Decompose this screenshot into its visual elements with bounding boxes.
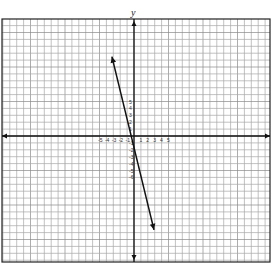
svg-text:-2: -2 — [129, 147, 134, 153]
svg-text:-6: -6 — [129, 174, 134, 180]
svg-text:3: 3 — [129, 112, 132, 118]
svg-text:5: 5 — [167, 137, 170, 143]
y-axis-label: y — [130, 7, 136, 18]
svg-text:1: 1 — [139, 137, 142, 143]
svg-text:-4: -4 — [129, 161, 134, 167]
svg-text:3: 3 — [153, 137, 156, 143]
svg-text:-3: -3 — [112, 137, 117, 143]
svg-text:-5: -5 — [98, 137, 103, 143]
svg-text:5: 5 — [129, 99, 132, 105]
svg-text:-3: -3 — [129, 154, 134, 160]
grid-lines — [2, 19, 270, 262]
coordinate-grid-chart: -5-4-3-2-11234554321-1-2-3-4-5-6 y — [0, 0, 275, 267]
svg-text:2: 2 — [146, 137, 149, 143]
svg-text:-4: -4 — [105, 137, 110, 143]
svg-text:4: 4 — [160, 137, 163, 143]
svg-text:4: 4 — [129, 105, 132, 111]
svg-text:-2: -2 — [119, 137, 124, 143]
svg-text:2: 2 — [129, 119, 132, 125]
svg-text:-5: -5 — [129, 168, 134, 174]
